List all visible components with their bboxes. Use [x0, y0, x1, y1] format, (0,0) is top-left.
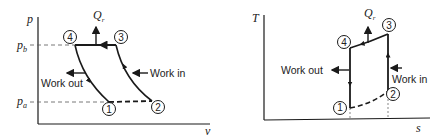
- svg-text:Qr: Qr: [93, 8, 105, 24]
- svg-text:3: 3: [118, 32, 124, 43]
- svg-text:3: 3: [386, 20, 392, 31]
- ts-heat-label: Qr: [364, 6, 376, 22]
- ts-state-3: 3: [383, 19, 396, 32]
- ts-y-axis-label: T: [252, 11, 260, 25]
- svg-text:1: 1: [337, 102, 343, 113]
- svg-text:1: 1: [106, 104, 112, 115]
- svg-text:4: 4: [341, 37, 347, 48]
- pv-work-in-label: Work in: [150, 67, 186, 79]
- pv-work-out-label: Work out: [41, 77, 83, 89]
- ts-diagram: T s Qr Work out Work in 4 3: [252, 6, 430, 135]
- pv-state-2: 2: [152, 101, 165, 114]
- svg-text:Qr: Qr: [364, 6, 376, 22]
- svg-text:4: 4: [67, 32, 73, 43]
- ts-work-out-label: Work out: [281, 64, 323, 76]
- ts-process-1-2: [350, 91, 388, 108]
- svg-text:2: 2: [155, 102, 161, 113]
- ts-state-2: 2: [387, 88, 400, 101]
- svg-text:2: 2: [390, 89, 396, 100]
- pv-diagram: p v pb pa Qr Work out Work in: [16, 8, 211, 138]
- ts-work-in-label: Work in: [392, 73, 428, 85]
- svg-text:pb: pb: [16, 38, 27, 54]
- pa-label: pa: [16, 94, 27, 110]
- pv-heat-label: Qr: [93, 8, 105, 24]
- pb-label: pb: [16, 38, 27, 54]
- pv-x-axis-label: v: [205, 124, 211, 138]
- ts-x-axis: [264, 118, 430, 120]
- ts-state-4: 4: [338, 36, 351, 49]
- pv-process-1-2: [109, 101, 152, 102]
- svg-text:pa: pa: [16, 94, 27, 110]
- pv-state-1: 1: [103, 103, 116, 116]
- thermodynamic-cycle-diagrams: p v pb pa Qr Work out Work in: [0, 0, 440, 140]
- pv-y-axis-label: p: [26, 12, 33, 26]
- ts-x-axis-label: s: [416, 121, 421, 135]
- pv-state-4: 4: [64, 31, 77, 44]
- ts-process-3-4: [350, 34, 388, 48]
- ts-state-1: 1: [334, 102, 347, 115]
- pv-state-3: 3: [115, 31, 128, 44]
